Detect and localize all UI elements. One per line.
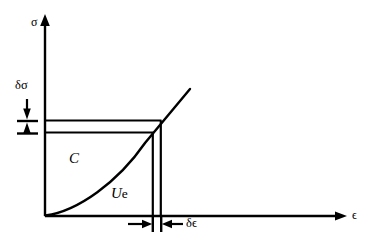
delta-epsilon-left-arrowhead [142,220,152,228]
stress-axis-arrowhead [40,14,50,26]
stress-axis [40,14,50,216]
complementary-energy-label: C [69,151,79,166]
elastic-strain-energy-label: Ue [111,186,128,201]
delta-sigma-label: δσ [15,79,28,92]
delta-sigma-upper-arrowhead [23,109,31,120]
delta-epsilon-label: δϵ [186,217,197,230]
strain-axis-arrowhead [335,211,347,220]
elastic-strain-energy-label-symbol: U [111,185,122,201]
delta-sigma-lower-arrowhead [23,123,31,134]
strain-axis-label: ϵ [352,209,357,221]
figure-canvas [0,0,368,251]
stress-strain-figure: σ ϵ δσ δϵ C Ue [0,0,368,251]
complementary-energy-label-symbol: C [69,150,79,166]
delta-sigma-dimension [17,99,38,134]
elastic-strain-energy-label-subscript: e [122,186,128,201]
delta-epsilon-dimension [128,217,183,233]
stress-axis-label: σ [31,16,37,28]
